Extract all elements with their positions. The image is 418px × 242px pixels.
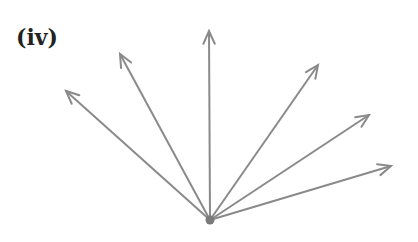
arrow-shaft [66,91,210,220]
arrow-shaft [209,31,210,220]
arrow-4 [210,65,318,220]
arrow-shaft [210,166,391,220]
arrow-5 [210,115,369,220]
arrow-shaft [210,115,369,220]
arrow-shaft [120,54,210,220]
origin-dot [206,216,215,225]
vector-fan-diagram [0,0,418,242]
arrow-3 [203,31,214,220]
arrow-2 [120,54,210,220]
arrow-6 [210,164,391,220]
arrow-1 [66,91,210,220]
arrowhead-icon [355,115,369,127]
arrow-shaft [210,65,318,220]
